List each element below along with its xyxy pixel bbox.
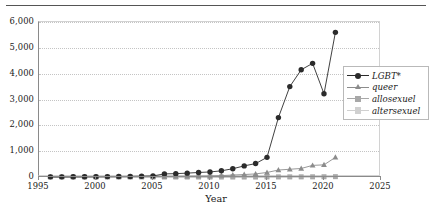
data-point-marker	[185, 170, 190, 175]
data-point-marker	[299, 67, 304, 72]
x-axis-tick-label: 2015	[255, 181, 276, 191]
legend-marker-circle-icon	[347, 70, 369, 81]
y-axis-tick-label: 6,000	[10, 16, 34, 26]
series-canvas	[39, 22, 381, 177]
x-axis-tick-label: 2020	[312, 181, 333, 191]
legend-item: altersexuel	[347, 105, 424, 117]
data-point-marker	[333, 30, 338, 35]
legend-marker-square-icon	[347, 105, 369, 116]
x-axis-tick-label: 2005	[141, 181, 162, 191]
legend-item: LGBT*	[347, 70, 424, 82]
data-point-marker	[219, 168, 224, 173]
series-line	[50, 157, 335, 177]
x-axis-tick-label: 2000	[84, 181, 105, 191]
legend-item: queer	[347, 82, 424, 94]
legend-label: altersexuel	[369, 106, 420, 116]
legend-swatch	[355, 73, 361, 79]
data-point-marker	[230, 166, 235, 171]
legend-label: queer	[369, 82, 397, 92]
y-axis-tick-label: 2,000	[10, 119, 34, 129]
data-point-marker	[207, 169, 212, 174]
data-point-marker	[253, 161, 258, 166]
y-axis-tick-label: 1,000	[10, 145, 34, 155]
data-point-marker	[264, 155, 269, 160]
legend-swatch	[355, 96, 361, 102]
data-point-marker	[321, 91, 326, 96]
data-point-marker	[287, 84, 292, 89]
series-line	[50, 32, 335, 177]
legend-item: allosexuel	[347, 93, 424, 105]
x-axis-tick-label: 2025	[369, 181, 390, 191]
x-axis-tick-mark	[152, 176, 153, 180]
legend-swatch	[355, 107, 361, 113]
legend-swatch	[355, 84, 361, 89]
legend-marker-square-icon	[347, 93, 369, 104]
series-lgbt	[48, 30, 338, 180]
x-axis-tick-label: 1995	[27, 181, 48, 191]
data-point-marker	[310, 61, 315, 66]
y-axis-tick-label: 3,000	[10, 94, 34, 104]
x-axis-tick-mark	[38, 176, 39, 180]
plot-area	[38, 21, 380, 176]
y-axis-tick-label: 5,000	[10, 42, 34, 52]
data-point-marker	[242, 163, 247, 168]
x-axis-tick-mark	[266, 176, 267, 180]
y-axis-labels: 01,0002,0003,0004,0005,0006,000	[0, 21, 34, 176]
y-axis-tick-label: 0	[29, 171, 34, 181]
x-axis-tick-mark	[95, 176, 96, 180]
x-axis-tick-label: 2010	[198, 181, 219, 191]
data-point-marker	[196, 170, 201, 175]
data-point-marker	[321, 162, 327, 167]
data-point-marker	[276, 115, 281, 120]
data-point-marker	[333, 154, 339, 159]
x-axis-title: Year	[0, 193, 432, 204]
legend-label: allosexuel	[369, 94, 416, 104]
page-divider-rule	[6, 5, 426, 6]
x-axis-tick-mark	[209, 176, 210, 180]
y-axis-tick-label: 4,000	[10, 68, 34, 78]
x-axis-tick-mark	[323, 176, 324, 180]
legend-marker-triangle-icon	[347, 82, 369, 93]
chart-figure: 01,0002,0003,0004,0005,0006,000 19952000…	[0, 0, 432, 212]
chart-legend: LGBT*queerallosexuelaltersexuel	[343, 66, 429, 120]
x-axis-tick-mark	[380, 176, 381, 180]
legend-label: LGBT*	[369, 71, 401, 81]
